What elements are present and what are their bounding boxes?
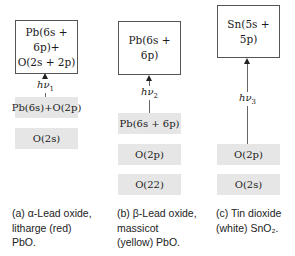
panel-c-level-2: O(2s) bbox=[217, 174, 280, 195]
panel-c-arrow-icon bbox=[244, 58, 250, 64]
photon-symbol: hν bbox=[37, 79, 50, 90]
level-label: O(2p) bbox=[135, 149, 164, 160]
panel-a-box-line-1: Pb(6s + 6p)+ bbox=[16, 25, 77, 55]
panel-b-photon-label: hν2 bbox=[140, 86, 159, 100]
panel-a-caption: (a) α-Lead oxide, litharge (red) PbO. bbox=[12, 206, 107, 250]
panel-b-arrow-icon bbox=[146, 75, 152, 81]
panel-c-caption: (c) Tin dioxide (white) SnO₂. bbox=[216, 206, 295, 235]
level-label: O(2s) bbox=[33, 133, 61, 144]
panel-b-level-1: Pb(6s + 6p) bbox=[118, 113, 181, 134]
panel-c-level-1: O(2p) bbox=[217, 144, 280, 165]
level-label: O(22) bbox=[135, 179, 164, 190]
caption-line: (c) Tin dioxide bbox=[216, 206, 295, 221]
level-label: O(2p) bbox=[234, 149, 263, 160]
caption-line: massicot bbox=[117, 221, 212, 236]
panel-a-box-line-2: O(2s + 2p) bbox=[18, 55, 76, 70]
panel-a-level-1: Pb(6s)+O(2p) bbox=[15, 97, 78, 118]
panel-b-box-line-1: Pb(6s + 6p) bbox=[119, 33, 180, 63]
panel-b-caption: (b) β-Lead oxide, massicot (yellow) PbO. bbox=[117, 206, 212, 250]
panel-a-conduction-box: Pb(6s + 6p)+ O(2s + 2p) bbox=[15, 20, 78, 74]
photon-subscript: 3 bbox=[252, 98, 256, 106]
caption-line: (b) β-Lead oxide, bbox=[117, 206, 212, 221]
caption-line: (yellow) PbO. bbox=[117, 235, 212, 250]
panel-a-photon-label: hν1 bbox=[36, 79, 55, 93]
panel-b-level-3: O(22) bbox=[118, 174, 181, 195]
level-label: Pb(6s + 6p) bbox=[120, 118, 180, 129]
caption-line: (white) SnO₂. bbox=[216, 221, 295, 236]
photon-symbol: hν bbox=[141, 86, 154, 97]
photon-symbol: hν bbox=[239, 92, 252, 103]
panel-c-box-line-1: Sn(5s + 5p) bbox=[218, 17, 279, 47]
photon-subscript: 2 bbox=[154, 92, 158, 100]
caption-line: PbO. bbox=[12, 235, 107, 250]
panel-c-photon-label: hν3 bbox=[238, 92, 257, 106]
panel-b-conduction-box: Pb(6s + 6p) bbox=[118, 21, 181, 75]
panel-a-level-2: O(2s) bbox=[15, 128, 78, 149]
photon-subscript: 1 bbox=[50, 85, 54, 93]
caption-line: (a) α-Lead oxide, bbox=[12, 206, 107, 221]
caption-line: litharge (red) bbox=[12, 221, 107, 236]
level-label: Pb(6s)+O(2p) bbox=[12, 102, 82, 113]
level-label: O(2s) bbox=[235, 179, 263, 190]
panel-b-level-2: O(2p) bbox=[118, 144, 181, 165]
panel-c-conduction-box: Sn(5s + 5p) bbox=[217, 5, 280, 58]
